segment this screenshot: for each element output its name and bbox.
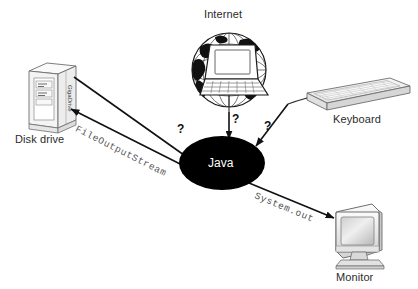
- edge-label-disk: ?: [177, 122, 184, 136]
- java-node-label: Java: [208, 156, 233, 170]
- edge-label-keyboard: ?: [264, 119, 271, 133]
- crt-monitor-icon: [336, 204, 384, 269]
- keyboard-icon: [288, 78, 410, 110]
- gigadrive-badge: GigaDrive: [67, 85, 73, 112]
- internet-label: Internet: [204, 8, 242, 20]
- diagram-canvas: Java Internet Disk drive Keyboard Monito…: [0, 0, 418, 289]
- keyboard-label: Keyboard: [333, 113, 381, 125]
- monitor-label: Monitor: [336, 271, 373, 283]
- edge-label-internet: ?: [232, 112, 239, 126]
- disk-drive-label: Disk drive: [15, 133, 64, 145]
- globe-laptop-icon: [192, 33, 268, 107]
- edge-keyboard-to-java: [256, 104, 288, 146]
